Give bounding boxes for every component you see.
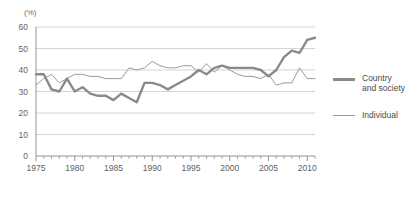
x-tick-1990: 1990 [135,163,169,173]
legend-swatch-icon-country [333,78,355,81]
x-tick-2010: 2010 [290,163,324,173]
x-tick-1995: 1995 [174,163,208,173]
x-tick-1975: 1975 [19,163,53,173]
line-chart: (%) 60 50 40 30 20 10 0 1975 1980 1985 [0,0,419,204]
plot-canvas [0,0,419,204]
legend-label-country: Country and society [362,73,405,93]
x-tick-2005: 2005 [252,163,286,173]
legend-item-individual[interactable]: Individual [333,110,398,120]
x-tick-1980: 1980 [58,163,92,173]
x-tick-2000: 2000 [213,163,247,173]
legend-swatch-icon-individual [333,115,355,116]
x-axis-tick-marks [36,156,315,161]
legend-item-country-and-society[interactable]: Country and society [333,73,405,93]
x-tick-1985: 1985 [97,163,131,173]
legend-label-individual: Individual [362,110,398,120]
